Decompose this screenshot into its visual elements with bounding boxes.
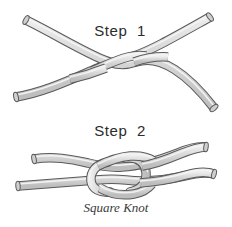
step1-twist-under xyxy=(134,55,168,62)
step-2-label: Step 2 xyxy=(4,122,232,139)
square-knot-figure: Step 1 Step 2 Square Knot xyxy=(0,0,232,227)
step-1-label: Step 1 xyxy=(4,22,232,39)
figure-caption: Square Knot xyxy=(0,200,232,216)
